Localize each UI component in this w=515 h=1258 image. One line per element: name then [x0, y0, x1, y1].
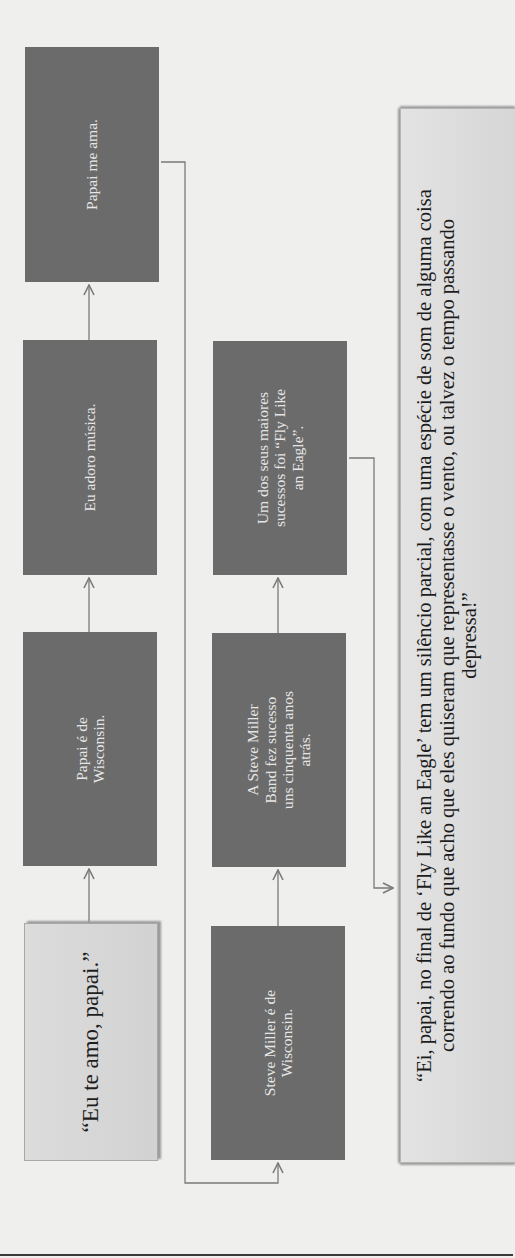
node-text: Papai é de Wisconsin. — [73, 694, 108, 804]
node-fly-like-an-eagle: Um dos seus maiores sucessos foi “Fly Li… — [213, 341, 347, 575]
node-text: A Steve Miller Band fez sucesso uns cinq… — [244, 691, 313, 809]
final-quote-box: “Ei, papai, no final de ‘Fly Like an Eag… — [400, 108, 515, 1163]
node-text: Papai me ama. — [83, 119, 100, 210]
node-text: Um dos seus maiores sucessos foi “Fly Li… — [254, 388, 306, 528]
final-quote-text: “Ei, papai, no final de ‘Fly Like an Eag… — [413, 186, 481, 1086]
node-papai-wisconsin: Papai é de Wisconsin. — [23, 632, 157, 866]
arrow-eagle-to-quote — [349, 458, 393, 888]
node-eu-adoro-musica: Eu adoro música. — [23, 340, 157, 575]
node-papai-me-ama: Papai me ama. — [25, 47, 159, 282]
start-node-eu-te-amo: “Eu te amo, papai.” — [24, 923, 158, 1161]
node-steve-miller-band: A Steve Miller Band fez sucesso uns cinq… — [212, 633, 346, 867]
node-text: Eu adoro música. — [81, 403, 98, 511]
node-steve-miller-wisconsin: Steve Miller é de Wisconsin. — [211, 926, 345, 1160]
node-text: Steve Miller é de Wisconsin. — [261, 988, 296, 1098]
start-node-text: “Eu te amo, papai.” — [78, 952, 104, 1133]
